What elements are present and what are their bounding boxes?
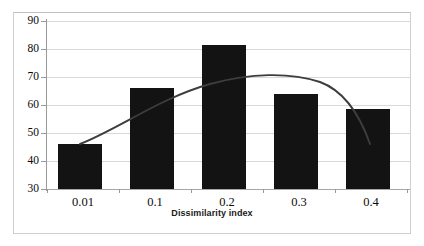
x-axis-tick	[191, 189, 192, 193]
x-axis-tick	[47, 189, 48, 193]
x-axis-tick-label-1: 0.1	[119, 196, 191, 209]
chart-container: 90 80 70 60 50 40 30 0.01 0.1 0.2	[0, 0, 424, 246]
bar-0.01	[58, 144, 102, 189]
bar-0.2	[202, 45, 246, 189]
x-axis-tick	[407, 189, 408, 193]
y-axis-tick-label: 60	[16, 99, 39, 111]
x-axis-tick-label-3: 0.3	[263, 196, 335, 209]
y-axis-tick	[41, 49, 46, 50]
y-axis-tick	[41, 105, 46, 106]
bar-0.1	[130, 88, 174, 189]
y-axis-tick	[41, 21, 46, 22]
y-axis-tick-label: 50	[16, 127, 39, 139]
y-axis-tick-label: 30	[16, 183, 39, 195]
y-axis-tick	[41, 77, 46, 78]
x-axis-title: Dissimilarity index	[0, 208, 424, 218]
y-axis-tick	[41, 189, 46, 190]
x-axis-tick-label-2: 0.2	[191, 196, 263, 209]
y-axis-tick-label: 80	[16, 43, 39, 55]
plot-area	[47, 21, 410, 189]
x-axis-tick-label-4: 0.4	[335, 196, 407, 209]
y-axis-tick-label: 40	[16, 155, 39, 167]
gridline-90	[47, 21, 410, 22]
y-axis-tick-label: 70	[16, 71, 39, 83]
x-axis-tick	[119, 189, 120, 193]
gridline-baseline-30	[47, 189, 410, 190]
x-axis-tick	[263, 189, 264, 193]
y-axis-tick-label: 90	[16, 15, 39, 27]
y-axis-tick	[41, 133, 46, 134]
bar-0.4	[346, 109, 390, 189]
x-axis-tick	[335, 189, 336, 193]
x-axis-tick-label-0: 0.01	[47, 196, 119, 209]
bar-0.3	[274, 94, 318, 189]
y-axis-tick	[41, 161, 46, 162]
